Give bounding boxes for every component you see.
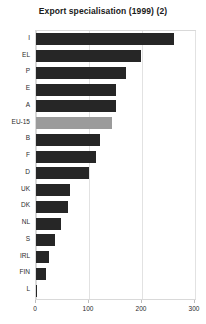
- bar-irl: [36, 251, 49, 263]
- y-tick-label-f: F: [26, 152, 30, 159]
- y-tick-label-fin: FIN: [20, 269, 30, 276]
- x-tick-100: [88, 300, 89, 303]
- x-axis: 0100200300: [35, 300, 196, 322]
- y-tick-label-l: L: [26, 286, 30, 293]
- gridline-300: [195, 31, 196, 299]
- bar-row: [36, 50, 195, 62]
- bar-d: [36, 167, 89, 179]
- x-tick-0: [35, 300, 36, 303]
- bar-row: [36, 134, 195, 146]
- bar-l: [36, 285, 37, 297]
- bar-b: [36, 134, 100, 146]
- bar-fin: [36, 268, 46, 280]
- bar-series: [36, 31, 195, 299]
- bar-eu-15: [36, 117, 112, 129]
- bar-row: [36, 117, 195, 129]
- bar-row: [36, 67, 195, 79]
- bar-row: [36, 251, 195, 263]
- y-tick-label-el: EL: [22, 52, 30, 59]
- y-tick-label-eu-15: EU-15: [12, 119, 30, 126]
- x-tick-200: [141, 300, 142, 303]
- bar-a: [36, 100, 116, 112]
- bar-row: [36, 201, 195, 213]
- y-tick-label-b: B: [26, 135, 30, 142]
- y-axis-labels: IELPEAEU-15BFDUKDKNLSIRLFINL: [0, 30, 33, 300]
- y-tick-label-i: I: [28, 35, 30, 42]
- bar-row: [36, 184, 195, 196]
- y-tick-label-p: P: [26, 68, 30, 75]
- x-tick-label-0: 0: [33, 305, 37, 312]
- bar-row: [36, 285, 195, 297]
- bar-el: [36, 50, 141, 62]
- y-tick-label-uk: UK: [21, 186, 30, 193]
- bar-p: [36, 67, 126, 79]
- y-tick-label-e: E: [26, 85, 30, 92]
- y-tick-label-s: S: [26, 236, 30, 243]
- bar-row: [36, 234, 195, 246]
- bar-row: [36, 218, 195, 230]
- y-tick-label-nl: NL: [22, 219, 30, 226]
- bar-uk: [36, 184, 70, 196]
- chart-container: Export specialisation (1999) (2) IELPEAE…: [0, 0, 206, 324]
- bar-row: [36, 84, 195, 96]
- y-tick-label-d: D: [25, 169, 30, 176]
- y-tick-label-dk: DK: [21, 202, 30, 209]
- bar-dk: [36, 201, 68, 213]
- chart-title: Export specialisation (1999) (2): [0, 6, 206, 16]
- bar-f: [36, 151, 96, 163]
- bar-row: [36, 151, 195, 163]
- bar-row: [36, 268, 195, 280]
- y-tick-label-a: A: [26, 102, 30, 109]
- bar-nl: [36, 218, 61, 230]
- bar-row: [36, 100, 195, 112]
- bar-row: [36, 33, 195, 45]
- bar-s: [36, 234, 55, 246]
- y-tick-label-irl: IRL: [20, 253, 30, 260]
- x-tick-label-100: 100: [83, 305, 94, 312]
- bar-e: [36, 84, 116, 96]
- bar-row: [36, 167, 195, 179]
- bar-i: [36, 33, 174, 45]
- x-tick-label-300: 300: [189, 305, 200, 312]
- plot-area: [35, 30, 196, 300]
- x-tick-label-200: 200: [136, 305, 147, 312]
- x-tick-300: [194, 300, 195, 303]
